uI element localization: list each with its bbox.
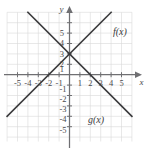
- x-tick-label: 5: [119, 78, 123, 88]
- x-tick-label: 1: [78, 78, 82, 88]
- y-tick-label: 1: [60, 64, 64, 74]
- y-tick-label: -1: [59, 84, 66, 94]
- x-tick-label: -4: [24, 78, 32, 88]
- x-tick-label: -2: [45, 78, 52, 88]
- graph-figure: -5 -4 -3 -2 -1 1 2 3 4 5 5 4 3 2 1 -1 -2…: [0, 0, 147, 153]
- y-axis-label: y: [59, 4, 64, 14]
- y-tick-label: -3: [59, 104, 66, 114]
- y-tick-label: 3: [60, 49, 64, 59]
- x-tick-label: -3: [35, 78, 42, 88]
- x-tick-label: 4: [109, 78, 114, 88]
- label-g-of-x: g(x): [88, 114, 105, 126]
- x-tick-labels: -5 -4 -3 -2 -1 1 2 3 4 5: [14, 78, 124, 88]
- y-tick-label: -2: [59, 94, 66, 104]
- y-tick-label: -4: [59, 114, 67, 124]
- y-axis-arrow-icon: [66, 6, 73, 13]
- y-tick-label: -5: [59, 125, 66, 135]
- x-axis-label: x: [139, 77, 144, 87]
- y-tick-label: 5: [60, 28, 64, 38]
- label-f-of-x: f(x): [113, 26, 128, 38]
- x-tick-label: 3: [99, 78, 103, 88]
- x-tick-label: -5: [14, 78, 21, 88]
- x-tick-label: 2: [88, 78, 92, 88]
